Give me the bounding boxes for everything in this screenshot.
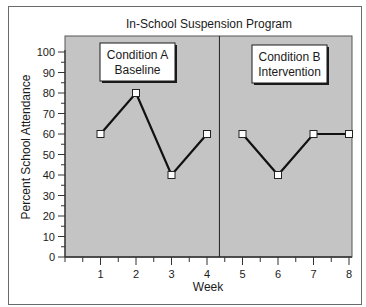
data-point-marker xyxy=(239,131,246,138)
phase-name: Condition B xyxy=(258,50,320,64)
x-tick-label: 3 xyxy=(168,268,174,280)
x-tick-label: 1 xyxy=(97,268,103,280)
data-point-marker xyxy=(168,172,175,179)
data-point-marker xyxy=(346,131,353,138)
x-tick-label: 6 xyxy=(275,268,281,280)
phase-subtitle: Intervention xyxy=(258,65,321,79)
phase-label-box: Condition ABaseline xyxy=(100,43,177,83)
y-tick-label: 80 xyxy=(43,87,55,99)
y-axis-label: Percent School Attendance xyxy=(19,74,33,219)
y-tick-label: 0 xyxy=(49,251,55,263)
x-tick-label: 5 xyxy=(239,268,245,280)
x-tick-label: 2 xyxy=(133,268,139,280)
phase-subtitle: Baseline xyxy=(114,63,160,77)
y-tick-label: 20 xyxy=(43,210,55,222)
y-tick-label: 100 xyxy=(37,46,55,58)
y-tick-label: 30 xyxy=(43,190,55,202)
x-axis-label: Week xyxy=(193,280,224,294)
y-tick-label: 60 xyxy=(43,128,55,140)
y-axis: 0102030405060708090100 xyxy=(37,46,65,263)
data-point-marker xyxy=(204,131,211,138)
data-point-marker xyxy=(133,90,140,97)
phase-name: Condition A xyxy=(107,48,168,62)
x-tick-label: 7 xyxy=(310,268,316,280)
y-tick-label: 50 xyxy=(43,149,55,161)
chart-title: In-School Suspension Program xyxy=(126,17,292,31)
data-point-marker xyxy=(97,131,104,138)
y-tick-label: 40 xyxy=(43,169,55,181)
x-axis: 12345678 xyxy=(65,257,352,280)
x-tick-label: 8 xyxy=(346,268,352,280)
x-tick-label: 4 xyxy=(204,268,210,280)
y-tick-label: 70 xyxy=(43,108,55,120)
data-point-marker xyxy=(310,131,317,138)
line-chart: In-School Suspension Program 01020304050… xyxy=(0,0,366,307)
y-tick-label: 10 xyxy=(43,231,55,243)
y-tick-label: 90 xyxy=(43,67,55,79)
data-point-marker xyxy=(275,172,282,179)
phase-label-box: Condition BIntervention xyxy=(252,45,329,85)
